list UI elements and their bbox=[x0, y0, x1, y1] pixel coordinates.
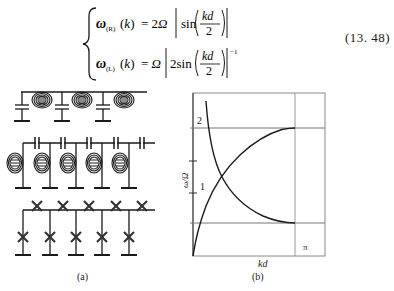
cell-2 bbox=[54, 92, 70, 121]
inductor-icon bbox=[7, 153, 23, 173]
inductor-icon bbox=[112, 153, 128, 173]
inductor-icon bbox=[72, 92, 92, 108]
y-axis-label: ω/Ω bbox=[180, 172, 190, 188]
inductor-icon bbox=[34, 153, 50, 173]
y-tick-label-1: 1 bbox=[200, 181, 205, 192]
inductor-icon bbox=[86, 153, 102, 173]
dispersion-chart: 2 1 π kd ω/Ω bbox=[180, 93, 325, 269]
cell-1 bbox=[14, 92, 30, 121]
inductor-icon bbox=[114, 92, 134, 108]
curve-left-handed bbox=[206, 101, 295, 223]
x-tick-label-pi: π bbox=[303, 242, 308, 252]
curve-right-handed bbox=[193, 128, 295, 256]
caption-a: (a) bbox=[77, 271, 88, 283]
caption-b: (b) bbox=[252, 271, 264, 283]
cell-3 bbox=[95, 92, 111, 121]
inductor-icon bbox=[32, 92, 52, 108]
x-axis-label: kd bbox=[258, 258, 268, 269]
inductor-icon bbox=[60, 153, 76, 173]
y-tick-label-2: 2 bbox=[197, 115, 202, 126]
figure-a-circuits: 2 1 π kd ω/Ω (a) (b) bbox=[0, 0, 394, 291]
